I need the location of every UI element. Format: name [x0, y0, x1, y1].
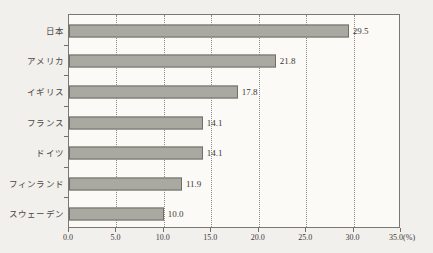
gridline — [259, 15, 260, 227]
category-label: アメリカ — [0, 54, 64, 66]
bar-value-label: 14.1 — [207, 148, 223, 158]
horizontal-bar-chart: 日本アメリカイギリスフランスドイツフィンランドスウェーデン 29.521.817… — [0, 0, 433, 253]
x-axis-tick — [400, 228, 401, 232]
y-axis-tick — [64, 136, 68, 137]
plot-area: 29.521.817.814.114.111.910.0 — [68, 14, 400, 228]
x-axis-tick-label: 15.0 — [203, 233, 217, 242]
bar — [69, 116, 203, 129]
x-axis-tick-label: 25.0 — [298, 233, 312, 242]
gridline — [354, 15, 355, 227]
category-label: フィンランド — [0, 177, 64, 189]
category-label: イギリス — [0, 85, 64, 97]
bar-value-label: 14.1 — [207, 118, 223, 128]
x-axis-tick-label: 30.0 — [346, 233, 360, 242]
x-axis-tick — [68, 228, 69, 232]
bar — [69, 24, 349, 37]
x-axis-tick-label: 10.0 — [156, 233, 170, 242]
gridline — [306, 15, 307, 227]
y-axis-tick — [64, 45, 68, 46]
category-label: スウェーデン — [0, 207, 64, 219]
x-axis-tick — [210, 228, 211, 232]
y-axis-tick — [64, 106, 68, 107]
category-label: フランス — [0, 116, 64, 128]
x-axis-tick — [305, 228, 306, 232]
y-axis-tick — [64, 167, 68, 168]
x-axis-tick — [258, 228, 259, 232]
x-axis-tick — [163, 228, 164, 232]
bar-value-label: 11.9 — [186, 179, 201, 189]
category-axis-labels: 日本アメリカイギリスフランスドイツフィンランドスウェーデン — [0, 14, 64, 228]
bar-value-label: 29.5 — [353, 26, 369, 36]
x-axis-tick-label-with-unit: 35.0(%) — [389, 233, 415, 242]
y-axis-tick — [64, 197, 68, 198]
bar-value-label: 10.0 — [168, 209, 184, 219]
x-axis-tick-label: 0.0 — [63, 233, 73, 242]
bar — [69, 55, 276, 68]
category-label: 日本 — [0, 24, 64, 36]
bar-value-label: 17.8 — [242, 87, 258, 97]
x-axis-tick — [353, 228, 354, 232]
bar — [69, 86, 238, 99]
y-axis-tick — [64, 75, 68, 76]
category-label: ドイツ — [0, 146, 64, 158]
bar — [69, 177, 182, 190]
x-axis-tick-label: 5.0 — [110, 233, 120, 242]
bar — [69, 208, 164, 221]
bar — [69, 147, 203, 160]
bar-value-label: 21.8 — [280, 56, 296, 66]
x-axis-tick — [115, 228, 116, 232]
x-axis-tick-label: 20.0 — [251, 233, 265, 242]
